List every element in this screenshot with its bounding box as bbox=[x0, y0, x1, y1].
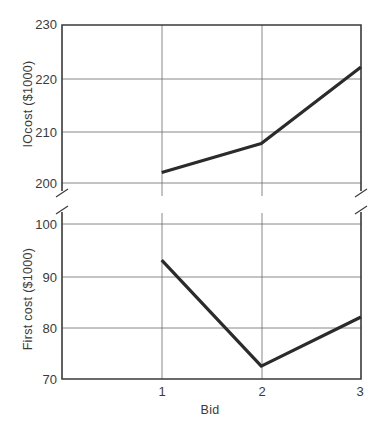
upper-ytick-210: 210 bbox=[35, 125, 57, 140]
xtick-bid-2: 2 bbox=[258, 384, 265, 399]
lower-ylabel: First cost ($1000) bbox=[21, 248, 35, 351]
xtick-bid-3: 3 bbox=[356, 384, 363, 399]
iocost-series-line bbox=[162, 67, 361, 172]
upper-ytick-220: 220 bbox=[35, 72, 57, 87]
chart-canvas: 230 220 210 200 IOcost ($1000) 100 90 80… bbox=[0, 0, 384, 436]
upper-ytick-200: 200 bbox=[35, 176, 57, 191]
upper-ytick-230: 230 bbox=[35, 17, 57, 32]
xtick-bid-1: 1 bbox=[158, 384, 165, 399]
lower-panel: 100 90 80 70 1 2 3 Bid First cost ($1000… bbox=[21, 206, 367, 417]
first-cost-series-line bbox=[162, 260, 361, 366]
lower-frame bbox=[62, 212, 361, 379]
lower-ytick-100: 100 bbox=[35, 217, 57, 232]
lower-ytick-70: 70 bbox=[43, 372, 57, 387]
xlabel: Bid bbox=[201, 403, 220, 417]
upper-ylabel: IOcost ($1000) bbox=[21, 61, 35, 148]
upper-frame bbox=[62, 25, 361, 191]
lower-ytick-80: 80 bbox=[43, 321, 57, 336]
upper-panel: 230 220 210 200 IOcost ($1000) bbox=[21, 17, 367, 197]
lower-ytick-90: 90 bbox=[43, 270, 57, 285]
